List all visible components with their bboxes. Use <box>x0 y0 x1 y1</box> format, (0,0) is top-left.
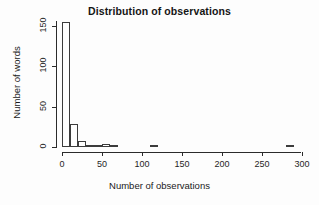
y-axis-tick-label: 100 <box>38 56 48 74</box>
chart-screenshot: Distribution of observations 05010015020… <box>0 0 319 205</box>
y-axis-line <box>56 21 57 148</box>
y-axis-tick-label: 0 <box>38 137 48 155</box>
histogram-bar <box>286 145 294 147</box>
y-axis-tick <box>52 26 57 27</box>
histogram-bar <box>94 145 102 147</box>
histogram-bar <box>86 145 94 147</box>
histogram-bar <box>110 145 118 147</box>
x-axis-tick-label: 300 <box>287 159 317 169</box>
x-axis-tick-label: 100 <box>127 159 157 169</box>
x-axis-tick <box>102 152 103 156</box>
y-axis-tick <box>52 107 57 108</box>
x-axis-tick <box>62 152 63 156</box>
histogram-bar <box>150 145 158 147</box>
y-axis-tick-label: 50 <box>38 97 48 115</box>
histogram-bar <box>70 124 78 147</box>
x-axis-tick <box>142 152 143 156</box>
x-axis-tick-label: 250 <box>247 159 277 169</box>
plot-area <box>62 18 302 147</box>
histogram-bar <box>78 141 86 147</box>
x-axis-tick <box>182 152 183 156</box>
x-axis-tick <box>302 152 303 156</box>
x-axis-tick-label: 150 <box>167 159 197 169</box>
x-axis-tick <box>222 152 223 156</box>
y-axis-tick <box>52 147 57 148</box>
y-axis-tick-label: 150 <box>38 16 48 34</box>
x-axis-tick-label: 0 <box>47 159 77 169</box>
histogram-bar <box>62 22 70 147</box>
y-axis-title: Number of words <box>11 33 22 133</box>
x-axis-tick-label: 200 <box>207 159 237 169</box>
y-axis-tick <box>52 66 57 67</box>
x-axis-tick <box>262 152 263 156</box>
x-axis-tick-label: 50 <box>87 159 117 169</box>
x-axis-title: Number of observations <box>0 180 319 191</box>
histogram-bar <box>102 144 110 147</box>
